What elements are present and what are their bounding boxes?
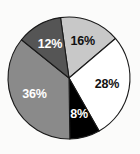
pie-slice-label: 36% [22, 87, 47, 101]
pie-chart-figure: 16%28%8%36%12% [0, 0, 140, 154]
pie-slice-label: 28% [95, 77, 120, 91]
pie-chart-svg: 16%28%8%36%12% [0, 0, 140, 154]
pie-slice-label: 8% [70, 107, 88, 121]
pie-slice-label: 16% [70, 34, 95, 48]
pie-slice-label: 12% [38, 37, 63, 51]
